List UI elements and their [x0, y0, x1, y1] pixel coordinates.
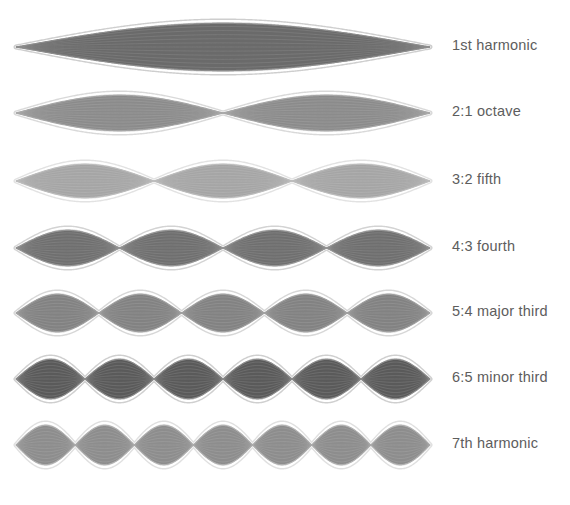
wave-internal-striation	[16, 310, 430, 316]
wave-internal-striation	[16, 372, 430, 386]
wave-internal-striation	[16, 170, 430, 193]
wave-highlight-ring	[16, 292, 430, 334]
wave-internal-striation	[16, 303, 430, 322]
wave-envelope-fill	[16, 230, 430, 265]
harmonic-label: 1st harmonic	[452, 37, 537, 53]
wave-internal-striation	[16, 107, 430, 119]
wave-outer-halo	[16, 423, 430, 467]
wave-envelope-fill	[16, 23, 430, 70]
wave-highlight-ring	[16, 162, 430, 200]
wave-internal-striation	[16, 98, 430, 128]
wave-internal-striation	[16, 307, 430, 320]
wave-internal-striation	[16, 300, 430, 326]
harmonic-label: 4:3 fourth	[452, 238, 515, 254]
wave-envelope-fill	[16, 294, 430, 331]
wave-internal-striation	[16, 175, 430, 186]
wave-envelope-fill	[16, 164, 430, 197]
harmonic-label: 7th harmonic	[452, 435, 538, 451]
wave-internal-striation	[16, 172, 430, 189]
wave-highlight-ring	[16, 228, 430, 268]
wave-internal-striation	[16, 428, 430, 462]
wave-internal-striation	[16, 239, 430, 257]
wave-internal-striation	[16, 39, 430, 47]
wave-internal-striation	[16, 31, 430, 47]
wave-internal-striation	[16, 376, 430, 383]
wave-internal-striation	[16, 297, 430, 329]
wave-internal-striation	[16, 110, 430, 116]
wave-internal-striation	[16, 98, 430, 128]
wave-outer-halo	[16, 162, 430, 200]
wave-internal-striation	[16, 435, 430, 455]
wave-internal-striation	[16, 442, 430, 449]
wave-internal-striation	[16, 233, 430, 263]
wave-envelope-fill	[16, 95, 430, 130]
wave-internal-striation	[16, 438, 430, 452]
wave-internal-striation	[16, 310, 430, 316]
wave-internal-striation	[16, 365, 430, 392]
wave-internal-striation	[16, 170, 430, 193]
wave-internal-striation	[16, 372, 430, 386]
harmonic-label: 6:5 minor third	[452, 369, 548, 385]
wave-internal-striation	[16, 435, 430, 455]
wave-internal-striation	[16, 369, 430, 389]
wave-highlight-ring	[16, 93, 430, 133]
wave-internal-striation	[16, 167, 430, 195]
wave-internal-striation	[16, 47, 430, 68]
wave-internal-striation	[16, 442, 430, 449]
wave-internal-striation	[16, 431, 430, 458]
wave-outer-halo	[16, 228, 430, 268]
wave-internal-striation	[16, 239, 430, 257]
wave-internal-striation	[16, 236, 430, 260]
wave-envelope-fill	[16, 425, 430, 464]
wave-internal-striation	[16, 104, 430, 122]
wave-internal-striation	[16, 178, 430, 184]
wave-internal-striation	[16, 242, 430, 254]
wave-highlight-ring	[16, 423, 430, 467]
wave-outer-halo	[16, 21, 430, 73]
wave-internal-striation	[16, 303, 430, 322]
wave-internal-striation	[16, 175, 430, 186]
wave-internal-striation	[16, 47, 430, 51]
wave-internal-striation	[16, 47, 430, 59]
wave-internal-striation	[16, 172, 430, 189]
wave-internal-striation	[16, 369, 430, 389]
wave-internal-striation	[16, 428, 430, 462]
wave-internal-striation	[16, 35, 430, 47]
wave-internal-striation	[16, 365, 430, 392]
harmonic-label: 2:1 octave	[452, 103, 521, 119]
wave-internal-striation	[16, 110, 430, 116]
wave-highlight-ring	[16, 21, 430, 73]
wave-internal-striation	[16, 307, 430, 320]
wave-internal-striation	[16, 26, 430, 47]
wave-internal-striation	[16, 245, 430, 251]
wave-internal-striation	[16, 242, 430, 254]
wave-outer-halo	[16, 93, 430, 133]
wave-internal-striation	[16, 438, 430, 452]
wave-internal-striation	[16, 362, 430, 396]
wave-internal-striation	[16, 297, 430, 329]
wave-internal-striation	[16, 178, 430, 184]
wave-envelope-fill	[16, 359, 430, 398]
wave-internal-striation	[16, 101, 430, 125]
wave-internal-striation	[16, 431, 430, 458]
harmonic-series-figure: 1st harmonic2:1 octave3:2 fifth4:3 fourt…	[0, 0, 570, 505]
wave-internal-striation	[16, 104, 430, 122]
wave-outer-halo	[16, 357, 430, 401]
wave-internal-striation	[16, 233, 430, 263]
harmonic-label: 5:4 major third	[452, 303, 548, 319]
wave-internal-striation	[16, 47, 430, 63]
wave-internal-striation	[16, 47, 430, 55]
wave-highlight-ring	[16, 357, 430, 401]
wave-internal-striation	[16, 43, 430, 47]
wave-internal-striation	[16, 107, 430, 119]
wave-internal-striation	[16, 362, 430, 396]
wave-internal-striation	[16, 300, 430, 326]
wave-internal-striation	[16, 167, 430, 195]
wave-internal-striation	[16, 376, 430, 383]
harmonic-label: 3:2 fifth	[452, 171, 501, 187]
wave-internal-striation	[16, 245, 430, 251]
wave-outer-halo	[16, 292, 430, 334]
wave-internal-striation	[16, 236, 430, 260]
wave-internal-striation	[16, 101, 430, 125]
